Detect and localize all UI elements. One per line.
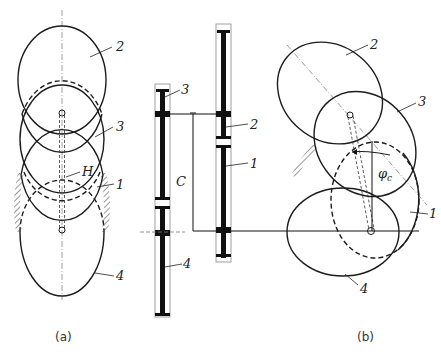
label-side-gear-4: 4 [182,256,191,271]
gear-2-top-cap [217,30,230,33]
label-b-gear-1: 1 [429,206,437,221]
caption-b: (b) [357,330,374,344]
leader-b-3 [397,103,416,112]
gear-2-bottom-cap [216,136,231,139]
gear-mechanism-diagram: 2 3 H 1 4 (a) [0,0,441,355]
label-carrier-H: H [81,164,94,179]
gear-3-hub [155,111,170,117]
label-side-gear-3: 3 [181,82,189,97]
carrier-rotated-2 [353,116,374,229]
label-center-distance-C: C [176,174,186,189]
gear-4-top-cap [155,206,170,209]
label-side-gear-1: 1 [250,156,258,171]
caption-a: (a) [55,330,72,344]
gear-1-solid-arc [398,153,419,250]
gear-3-side [160,90,165,200]
carrier-rotated [348,117,369,230]
label-b-gear-2: 2 [369,37,378,52]
label-side-gear-2: 2 [249,117,258,132]
gear-1-bottom-cap [216,254,231,257]
gear-3-bottom-cap [155,197,170,200]
label-gear-3: 3 [116,119,124,134]
gear-4-rotated [287,188,399,276]
label-b-gear-3: 3 [418,94,426,109]
label-gear-1: 1 [116,177,124,192]
leader-4 [95,273,114,276]
gear-3-top-cap [156,89,169,92]
gear-2-side [221,30,226,138]
gear-2-hub [216,111,231,117]
gear-4-bottom-cap [155,313,170,316]
label-angle-phi: φc [378,166,392,183]
gear-4-hub [155,230,170,236]
subfigure-b: 2 3 φc 1 4 (b) [257,21,437,344]
label-gear-2: 2 [115,39,124,54]
angle-arc [352,151,390,155]
gear-2-rotated [257,21,403,165]
gear-3-rotated [293,71,437,217]
leader-H [66,172,80,177]
gear-4-side [160,207,165,313]
leader-b-1 [410,212,428,214]
subfigure-a: 2 3 H 1 4 (a) [14,10,124,344]
label-b-gear-4: 4 [359,281,368,296]
ground-hatch-b [291,144,317,178]
label-gear-4: 4 [115,268,124,283]
gear-1-top-cap [216,145,231,148]
gear-1-hub [216,227,231,233]
gear-1-side [221,146,226,258]
